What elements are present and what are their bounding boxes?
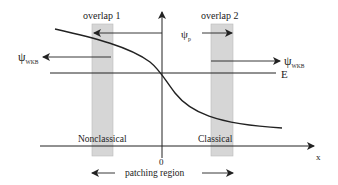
energy-label: E xyxy=(281,68,288,80)
diagram-svg: overlap 1 overlap 2 ψp ψWKB ψWKB E Noncl… xyxy=(0,0,338,185)
overlap-1-label: overlap 1 xyxy=(83,10,121,21)
x-axis-label: x xyxy=(316,152,321,162)
overlap-2-label: overlap 2 xyxy=(201,10,239,21)
psi-wkb-right-label: ψWKB xyxy=(284,54,305,69)
potential-curve xyxy=(55,29,282,128)
psi-wkb-right-subscript: WKB xyxy=(292,63,305,69)
psi-wkb-left-subscript: WKB xyxy=(26,59,39,65)
psi-p-label: ψp xyxy=(181,28,191,42)
origin-label: 0 xyxy=(159,157,164,167)
nonclassical-label: Nonclassical xyxy=(78,134,127,144)
patching-region-diagram: overlap 1 overlap 2 ψp ψWKB ψWKB E Noncl… xyxy=(0,0,338,185)
classical-label: Classical xyxy=(198,134,233,144)
psi-wkb-left-label: ψWKB xyxy=(18,50,39,65)
patching-region-label: patching region xyxy=(125,168,185,178)
psi-p-subscript: p xyxy=(188,36,191,42)
